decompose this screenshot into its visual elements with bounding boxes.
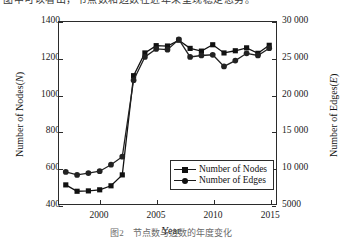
y-axis-tick bbox=[59, 206, 63, 207]
circle-marker-icon bbox=[221, 64, 227, 70]
figure-caption: 图2 节点数与边数的年度变化 bbox=[0, 226, 342, 239]
legend-item-nodes: Number of Nodes bbox=[174, 164, 269, 175]
chart-figure: Number of Nodes(N) Number of Edges(E) 40… bbox=[0, 12, 342, 251]
square-marker-icon bbox=[75, 189, 80, 194]
square-marker-icon bbox=[188, 46, 193, 51]
y-axis-right-tick-label: 5000 bbox=[282, 200, 301, 210]
y-axis-right-tick-label: 20 000 bbox=[282, 90, 308, 100]
circle-marker-icon bbox=[187, 54, 193, 60]
square-marker-icon bbox=[174, 165, 196, 175]
circle-marker-icon bbox=[199, 53, 205, 59]
square-marker-icon bbox=[108, 183, 113, 188]
x-axis-tick bbox=[157, 200, 158, 204]
page-top-text: 图中可以看出，节点数和边数在近年来呈现稳定态势。 bbox=[3, 0, 255, 6]
circle-marker-icon bbox=[255, 53, 261, 59]
figure-page: 图中可以看出，节点数和边数在近年来呈现稳定态势。 Number of Nodes… bbox=[0, 0, 342, 251]
circle-marker-icon bbox=[244, 50, 250, 56]
y2-axis-tick bbox=[272, 132, 276, 133]
series-line-2 bbox=[66, 39, 269, 174]
circle-marker-icon bbox=[131, 77, 137, 83]
circle-marker-icon bbox=[266, 45, 272, 51]
y-axis-right-tick-label: 30 000 bbox=[282, 16, 308, 26]
x-axis-tick bbox=[214, 200, 215, 204]
y2-axis-tick bbox=[272, 22, 276, 23]
square-marker-icon bbox=[97, 187, 102, 192]
circle-marker-icon bbox=[86, 170, 92, 176]
legend-item-edges: Number of Edges bbox=[174, 175, 269, 186]
chart-legend: Number of Nodes Number of Edges bbox=[170, 160, 274, 190]
y-axis-tick bbox=[59, 96, 63, 97]
y-axis-tick bbox=[59, 132, 63, 133]
y-axis-tick bbox=[59, 22, 63, 23]
y2-axis-tick bbox=[272, 206, 276, 207]
y2-axis-tick bbox=[272, 59, 276, 60]
circle-marker-icon bbox=[232, 58, 238, 64]
figure-caption-wrap: 图2 节点数与边数的年度变化 bbox=[0, 226, 342, 251]
square-marker-icon bbox=[210, 42, 215, 47]
x-axis-tick bbox=[100, 200, 101, 204]
square-marker-icon bbox=[221, 50, 226, 55]
circle-marker-icon bbox=[176, 37, 182, 43]
x-axis-tick-label: 2015 bbox=[245, 211, 295, 221]
legend-label-edges: Number of Edges bbox=[199, 176, 266, 186]
circle-marker-icon bbox=[108, 162, 114, 168]
y-axis-right-tick-label: 15 000 bbox=[282, 126, 308, 136]
circle-marker-icon bbox=[142, 54, 148, 60]
x-axis-tick-label: 2010 bbox=[188, 211, 238, 221]
square-marker-icon bbox=[63, 182, 68, 187]
x-axis-tick-label: 2005 bbox=[131, 211, 181, 221]
square-marker-icon bbox=[244, 45, 249, 50]
y-axis-right-tick-label: 10 000 bbox=[282, 163, 308, 173]
circle-marker-icon bbox=[74, 172, 80, 178]
y-axis-right-tick-label: 25 000 bbox=[282, 53, 308, 63]
page-top-text-strip: 图中可以看出，节点数和边数在近年来呈现稳定态势。 bbox=[0, 0, 342, 12]
circle-marker-icon bbox=[174, 176, 196, 186]
square-marker-icon bbox=[86, 188, 91, 193]
square-marker-icon bbox=[233, 48, 238, 53]
square-marker-icon bbox=[120, 172, 125, 177]
x-axis-tick bbox=[271, 200, 272, 204]
circle-marker-icon bbox=[210, 52, 216, 58]
y2-axis-tick bbox=[272, 96, 276, 97]
circle-marker-icon bbox=[63, 169, 69, 175]
y-axis-left-title: Number of Nodes(N) bbox=[14, 72, 25, 157]
circle-marker-icon bbox=[119, 154, 125, 160]
legend-label-nodes: Number of Nodes bbox=[199, 165, 267, 175]
y-axis-tick bbox=[59, 59, 63, 60]
circle-marker-icon bbox=[153, 46, 159, 52]
y-axis-right-title: Number of Edges(E) bbox=[328, 74, 339, 157]
circle-marker-icon bbox=[97, 168, 103, 174]
y-axis-tick bbox=[59, 169, 63, 170]
x-axis-tick-label: 2000 bbox=[74, 211, 124, 221]
circle-marker-icon bbox=[165, 47, 171, 53]
